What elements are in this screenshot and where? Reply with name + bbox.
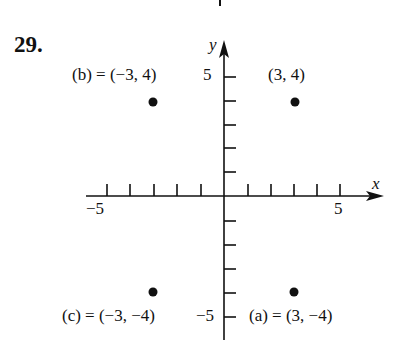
y-ticks [224, 77, 236, 317]
point-c-label: (c) = (−3, −4) [62, 306, 155, 326]
point-3-4 [291, 98, 300, 107]
x-axis-label: x [372, 174, 380, 194]
point-a [290, 288, 299, 297]
point-b-label: (b) = (−3, 4) [72, 65, 156, 85]
y-tick-label-neg5: −5 [196, 306, 214, 326]
point-3-4-label: (3, 4) [268, 65, 305, 85]
point-c [149, 288, 158, 297]
point-a-label: (a) = (3, −4) [249, 306, 332, 326]
point-b [149, 98, 158, 107]
coordinate-plane [0, 0, 410, 340]
y-tick-label-5: 5 [203, 65, 212, 85]
x-tick-label-neg5: −5 [86, 199, 104, 219]
y-axis-label: y [209, 35, 217, 55]
x-tick-label-5: 5 [334, 199, 343, 219]
